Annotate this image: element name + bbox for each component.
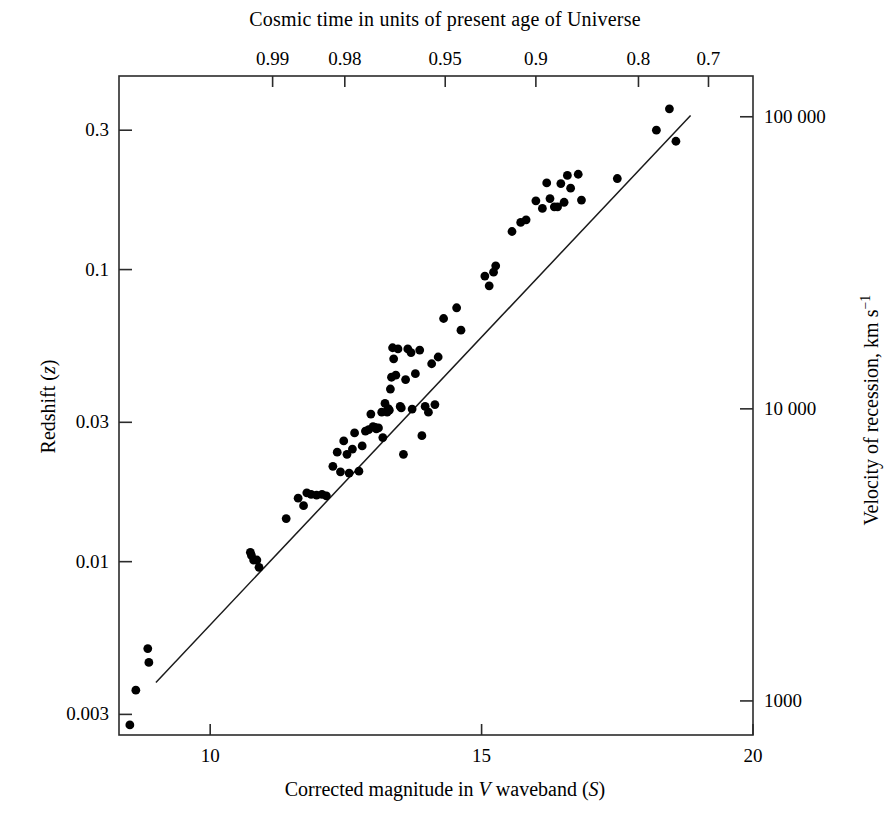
data-point — [452, 303, 461, 312]
data-point — [434, 353, 443, 362]
data-points — [125, 104, 680, 729]
data-point — [386, 385, 395, 394]
data-point — [415, 346, 424, 355]
data-point — [322, 491, 331, 500]
x-tick-label: 10 — [201, 745, 220, 767]
data-point — [424, 408, 433, 417]
data-point — [574, 170, 583, 179]
data-point — [125, 721, 134, 730]
data-point — [613, 174, 622, 183]
data-point — [328, 462, 337, 471]
top-tick-label: 0.9 — [524, 48, 548, 70]
data-point — [131, 686, 140, 695]
data-point — [439, 314, 448, 323]
y-tick-label: 0.03 — [31, 411, 109, 433]
data-point — [508, 227, 517, 236]
data-point — [339, 437, 348, 446]
figure-canvas: Cosmic time in units of present age of U… — [0, 0, 890, 824]
plot-area — [0, 0, 890, 824]
data-point — [480, 272, 489, 281]
data-point — [457, 326, 466, 335]
data-point — [522, 215, 531, 224]
data-point — [665, 104, 674, 113]
data-point — [345, 469, 354, 478]
fit-line — [156, 115, 691, 682]
data-point — [143, 644, 152, 653]
data-point — [431, 400, 440, 409]
top-tick-label: 0.99 — [256, 48, 289, 70]
data-point — [427, 359, 436, 368]
data-point — [336, 467, 345, 476]
data-point — [399, 450, 408, 459]
data-point — [408, 405, 417, 414]
x-tick-label: 20 — [744, 745, 763, 767]
right-tick-label: 100 000 — [764, 106, 826, 128]
data-point — [491, 261, 500, 270]
data-point — [355, 467, 364, 476]
data-point — [255, 563, 264, 572]
y-tick-label: 0.1 — [31, 259, 109, 281]
data-point — [563, 171, 572, 180]
data-point — [652, 126, 661, 135]
data-point — [411, 369, 420, 378]
data-point — [394, 345, 403, 354]
x-tick-label: 15 — [472, 745, 491, 767]
data-point — [577, 196, 586, 205]
data-point — [294, 494, 303, 503]
data-point — [350, 428, 359, 437]
data-point — [566, 184, 575, 193]
data-point — [542, 179, 551, 188]
top-tick-label: 0.7 — [697, 48, 721, 70]
y-tick-label: 0.003 — [31, 703, 109, 725]
data-point — [556, 179, 565, 188]
y-tick-label: 0.3 — [31, 119, 109, 141]
data-point — [385, 406, 394, 415]
data-point — [378, 433, 387, 442]
data-point — [144, 658, 153, 667]
y-tick-label: 0.01 — [31, 551, 109, 573]
top-tick-label: 0.95 — [429, 48, 462, 70]
data-point — [485, 281, 494, 290]
data-point — [282, 514, 291, 523]
data-point — [531, 196, 540, 205]
data-point — [391, 371, 400, 380]
data-point — [417, 431, 426, 440]
right-tick-label: 10 000 — [764, 398, 816, 420]
top-tick-label: 0.8 — [627, 48, 651, 70]
data-point — [546, 194, 555, 203]
data-point — [366, 410, 375, 419]
data-point — [560, 198, 569, 207]
data-point — [299, 501, 308, 510]
data-point — [333, 448, 342, 457]
data-point — [401, 375, 410, 384]
data-point — [407, 348, 416, 357]
top-tick-label: 0.98 — [328, 48, 361, 70]
right-tick-label: 1000 — [764, 690, 802, 712]
data-point — [374, 424, 383, 433]
data-point — [348, 445, 357, 454]
data-point — [672, 137, 681, 146]
data-point — [538, 204, 547, 213]
data-point — [358, 442, 367, 451]
data-point — [397, 404, 406, 413]
data-point — [389, 354, 398, 363]
